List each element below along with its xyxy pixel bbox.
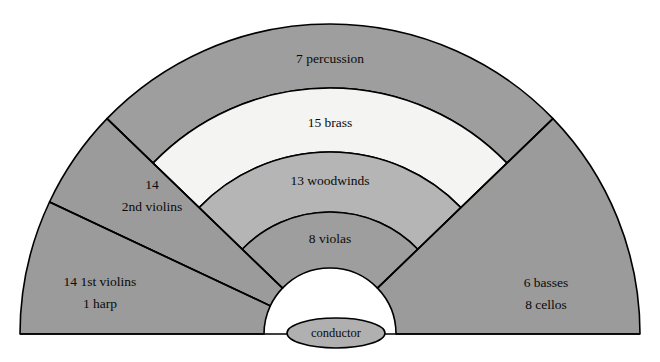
conductor-marker[interactable] [287, 318, 385, 348]
seating-chart-svg: 7 percussion 15 brass 13 woodwinds 8 vio… [0, 0, 660, 362]
orchestra-seating-diagram: 7 percussion 15 brass 13 woodwinds 8 vio… [0, 0, 660, 362]
